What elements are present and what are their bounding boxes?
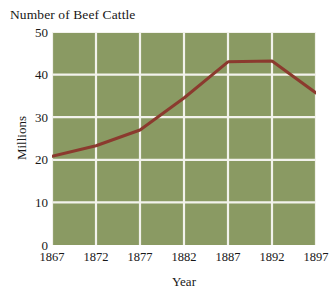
x-tick-label: 1867 xyxy=(29,250,75,264)
x-tick-label: 1887 xyxy=(205,250,251,264)
x-tick-label: 1872 xyxy=(73,250,119,264)
plot-svg xyxy=(52,32,316,245)
y-tick-label: 50 xyxy=(4,26,48,39)
x-tick-label: 1882 xyxy=(161,250,207,264)
y-tick-label: 40 xyxy=(4,68,48,81)
x-axis-tick-labels: 1867187218771882188718921897 xyxy=(52,250,316,270)
y-tick-label: 10 xyxy=(4,196,48,209)
x-tick-label: 1897 xyxy=(293,250,333,264)
plot-area xyxy=(52,32,316,245)
y-tick-label: 30 xyxy=(4,111,48,124)
x-axis-label: Year xyxy=(52,274,316,290)
x-tick-label: 1877 xyxy=(117,250,163,264)
y-tick-label: 20 xyxy=(4,153,48,166)
x-tick-label: 1892 xyxy=(249,250,295,264)
